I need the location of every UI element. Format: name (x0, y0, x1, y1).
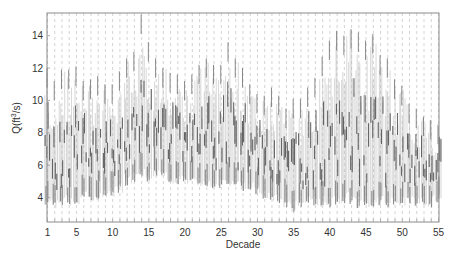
x-tick-label: 40 (324, 227, 336, 238)
x-tick-label: 20 (180, 227, 192, 238)
x-tick-label: 25 (216, 227, 228, 238)
x-tick-label: 50 (397, 227, 409, 238)
y-tick-label: 10 (32, 95, 44, 106)
y-axis-label: Q(ft3/s) (10, 102, 22, 134)
y-tick-label: 14 (32, 30, 44, 41)
y-tick-label: 6 (37, 160, 43, 171)
x-tick-label: 15 (143, 227, 155, 238)
x-tick-label: 5 (74, 227, 80, 238)
x-tick-label: 45 (361, 227, 373, 238)
y-tick-label: 8 (37, 127, 43, 138)
x-tick-label: 1 (45, 227, 51, 238)
x-tick-label: 55 (433, 227, 445, 238)
x-tick-label: 30 (252, 227, 264, 238)
chart: 1510152025303540455055 468101214 Decade … (0, 0, 463, 258)
y-axis-label-base: Q(ft (11, 117, 22, 134)
y-axis-label-rest: /s) (11, 102, 22, 113)
x-axis-label: Decade (226, 239, 261, 250)
y-tick-label: 4 (37, 192, 43, 203)
x-tick-label: 35 (288, 227, 300, 238)
y-tick-label: 12 (32, 63, 44, 74)
x-tick-label: 10 (107, 227, 119, 238)
